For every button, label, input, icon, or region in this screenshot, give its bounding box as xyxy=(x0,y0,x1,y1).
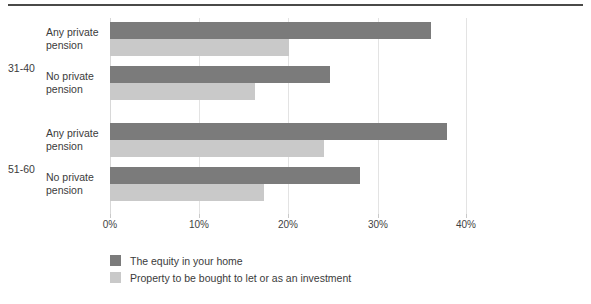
legend-swatch-icon-equity xyxy=(110,255,121,266)
category-label-line2: pension xyxy=(46,39,108,52)
category-label-line1: Any private xyxy=(46,127,108,140)
category-label-line1: Any private xyxy=(46,26,108,39)
tick-mark-20 xyxy=(288,214,289,218)
top-divider xyxy=(8,4,583,6)
legend-swatch-icon-property xyxy=(110,272,121,283)
bar-equity-51-60-no[interactable] xyxy=(110,167,360,184)
bar-equity-31-40-no[interactable] xyxy=(110,66,330,83)
tick-mark-10 xyxy=(199,214,200,218)
bar-property-51-60-no[interactable] xyxy=(110,184,264,201)
category-label-51-60-no-private-pension: No private pension xyxy=(46,171,108,197)
x-tick-label-10: 10% xyxy=(189,219,209,230)
group-label-31-40: 31-40 xyxy=(8,62,46,74)
x-tick-label-0: 0% xyxy=(103,219,117,230)
legend-label-equity: The equity in your home xyxy=(130,255,243,267)
category-label-line2: pension xyxy=(46,140,108,153)
bar-equity-31-40-any[interactable] xyxy=(110,22,431,39)
tick-mark-30 xyxy=(378,214,379,218)
category-label-line2: pension xyxy=(46,83,108,96)
chart-legend: The equity in your home Property to be b… xyxy=(110,252,351,286)
x-tick-label-30: 30% xyxy=(368,219,388,230)
category-label-51-60-any-private-pension: Any private pension xyxy=(46,127,108,153)
category-label-31-40-any-private-pension: Any private pension xyxy=(46,26,108,52)
bar-property-51-60-any[interactable] xyxy=(110,140,324,157)
chart-container: 31-40 51-60 Any private pension No priva… xyxy=(0,0,591,304)
group-label-51-60: 51-60 xyxy=(8,163,46,175)
legend-label-property: Property to be bought to let or as an in… xyxy=(130,272,351,284)
category-label-31-40-no-private-pension: No private pension xyxy=(46,70,108,96)
plot-area xyxy=(110,18,467,214)
legend-item-property[interactable]: Property to be bought to let or as an in… xyxy=(110,269,351,286)
tick-mark-0 xyxy=(110,214,111,218)
category-label-line1: No private xyxy=(46,171,108,184)
category-label-line2: pension xyxy=(46,184,108,197)
legend-item-equity[interactable]: The equity in your home xyxy=(110,252,351,269)
gridline-30 xyxy=(378,18,379,214)
bar-equity-51-60-any[interactable] xyxy=(110,123,447,140)
tick-mark-40 xyxy=(466,214,467,218)
gridline-40 xyxy=(466,18,467,214)
category-label-line1: No private xyxy=(46,70,108,83)
x-tick-label-20: 20% xyxy=(278,219,298,230)
bar-property-31-40-any[interactable] xyxy=(110,39,289,56)
bar-property-31-40-no[interactable] xyxy=(110,83,255,100)
x-tick-label-40: 40% xyxy=(456,219,476,230)
